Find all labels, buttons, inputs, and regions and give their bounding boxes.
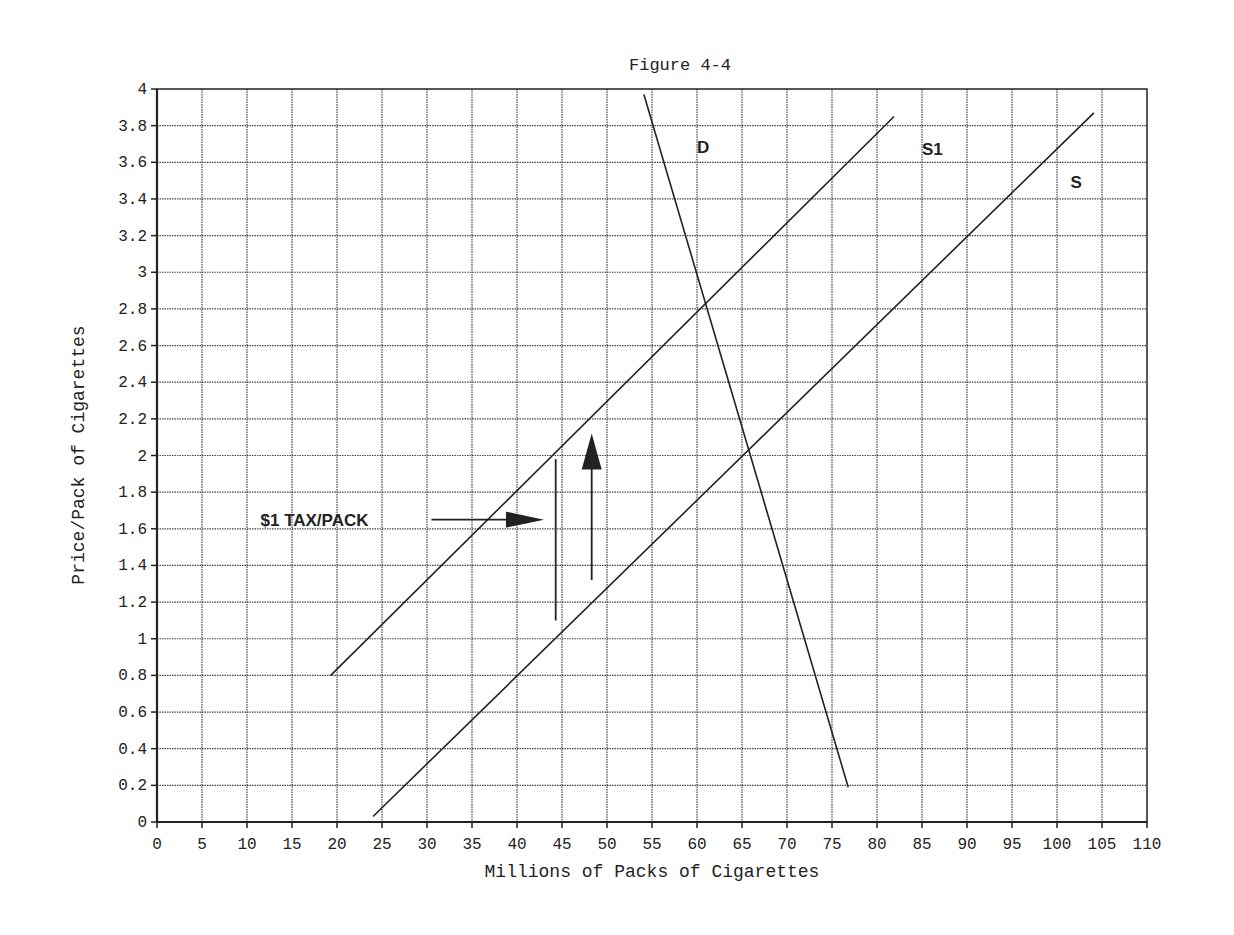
y-tick-label: 0.8 [118,667,147,685]
series-label-s1: S1 [922,140,943,159]
y-tick-label: 0.4 [118,741,147,759]
y-tick-label: 2.6 [118,338,147,356]
y-tick-label: 3.6 [118,154,147,172]
x-tick-label: 85 [912,836,931,854]
chart-title: Figure 4-4 [629,56,731,75]
x-tick-label: 30 [417,836,436,854]
x-tick-label: 65 [732,836,751,854]
x-tick-label: 50 [597,836,616,854]
tax-arrow-head [506,512,544,528]
x-tick-label: 35 [462,836,481,854]
x-tick-label: 95 [1002,836,1021,854]
y-tick-label: 2.2 [118,411,147,429]
series-line-s1 [331,116,894,675]
y-tick-label: 3.8 [118,118,147,136]
series-line-s [373,113,1094,817]
x-tick-label: 60 [687,836,706,854]
up-arrow-head [582,434,602,470]
x-tick-label: 110 [1133,836,1162,854]
y-axis-label: Price/Pack of Cigarettes [69,325,89,584]
x-tick-label: 100 [1043,836,1072,854]
y-tick-label: 1.6 [118,521,147,539]
x-tick-label: 0 [152,836,162,854]
x-tick-label: 75 [822,836,841,854]
y-tick-label: 4 [137,81,147,99]
tax-label: $1 TAX/PACK [261,511,370,530]
y-tick-label: 0 [137,814,147,832]
axis-ticks: 0510152025303540455055606570758085909510… [118,81,1161,854]
grid [157,89,1147,822]
series-label-s: S [1071,173,1082,192]
annotations: $1 TAX/PACK [261,434,602,621]
x-tick-label: 5 [197,836,207,854]
y-tick-label: 3.2 [118,228,147,246]
x-tick-label: 105 [1088,836,1117,854]
y-tick-label: 1.8 [118,484,147,502]
y-tick-label: 0.2 [118,777,147,795]
x-tick-label: 55 [642,836,661,854]
x-tick-label: 20 [327,836,346,854]
x-tick-label: 70 [777,836,796,854]
x-tick-label: 40 [507,836,526,854]
x-tick-label: 25 [372,836,391,854]
x-tick-label: 15 [282,836,301,854]
y-tick-label: 2 [137,448,147,466]
y-tick-label: 0.6 [118,704,147,722]
x-axis-label: Millions of Packs of Cigarettes [485,862,820,882]
y-tick-label: 3.4 [118,191,147,209]
series-label-d: D [697,138,709,157]
x-tick-label: 45 [552,836,571,854]
y-tick-label: 1.4 [118,557,147,575]
x-tick-label: 80 [867,836,886,854]
x-tick-label: 90 [957,836,976,854]
x-tick-label: 10 [237,836,256,854]
y-tick-label: 2.8 [118,301,147,319]
y-tick-label: 2.4 [118,374,147,392]
y-tick-label: 1 [137,631,147,649]
chart: Figure 4-4 Millions of Packs of Cigarett… [0,0,1234,935]
y-tick-label: 1.2 [118,594,147,612]
y-tick-label: 3 [137,264,147,282]
